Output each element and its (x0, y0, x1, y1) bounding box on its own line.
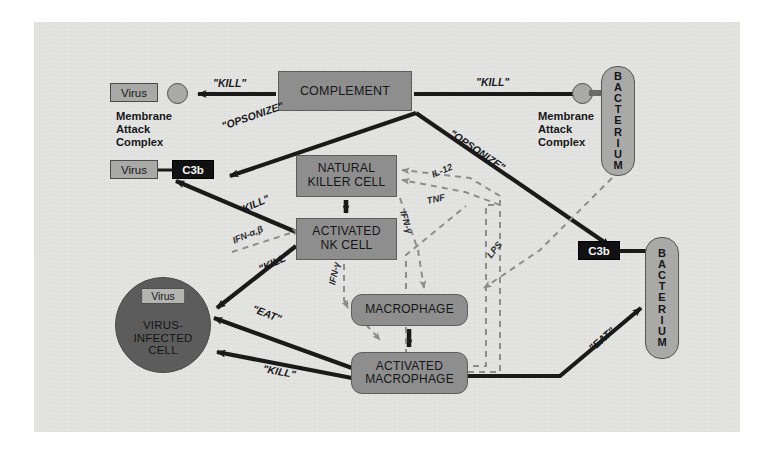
infected-cell-line3: CELL (133, 344, 192, 357)
membrane-attack-complex-icon-left (167, 83, 188, 104)
cap-left-l2: Attack (116, 123, 172, 136)
virus-c3b-link-left (158, 168, 174, 172)
dashed-feedback-routes (406, 196, 500, 372)
caption-membrane-attack-complex-left: Membrane Attack Complex (116, 110, 172, 150)
ank-label-line1: ACTIVATED (312, 225, 380, 239)
cap-right-l1: Membrane (538, 110, 594, 123)
route-amac-to-il12 (468, 196, 500, 372)
node-natural-killer-cell[interactable]: NATURAL KILLER CELL (296, 155, 397, 197)
cap-left-l1: Membrane (116, 110, 172, 123)
node-activated-macrophage[interactable]: ACTIVATED MACROPHAGE (351, 352, 468, 394)
edge-tnf-to-nk (402, 180, 500, 205)
c3b-left-label: C3b (182, 164, 204, 176)
infected-cell-line2: INFECTED (133, 332, 192, 345)
nk-label-line2: KILLER CELL (307, 176, 385, 190)
amac-label-line2: MACROPHAGE (365, 373, 454, 386)
caption-membrane-attack-complex-right: Membrane Attack Complex (538, 110, 594, 150)
node-bacterium-bottom[interactable]: B AC TE RI UM (645, 237, 679, 359)
amac-label-line1: ACTIVATED (365, 360, 454, 373)
node-complement[interactable]: COMPLEMENT (278, 71, 412, 111)
route-amac-upper (406, 206, 466, 366)
virus-top-left-label: Virus (121, 87, 147, 99)
ank-label-line2: NK CELL (312, 239, 380, 253)
cap-left-l3: Complex (116, 136, 172, 149)
route-amac-to-tnf (462, 205, 500, 366)
c3b-bacterium-link (619, 248, 647, 254)
infected-cell-line1: VIRUS- (133, 319, 192, 332)
node-macrophage[interactable]: MACROPHAGE (351, 294, 468, 326)
c3b-right-label: C3b (588, 245, 610, 257)
node-complement-label: COMPLEMENT (300, 84, 390, 98)
node-c3b-right[interactable]: C3b (578, 241, 620, 260)
macrophage-label: MACROPHAGE (365, 303, 454, 316)
edge-amac-eat-infected-cell (214, 318, 352, 368)
edge-amac-eat-bacterium (468, 308, 641, 376)
diagram-stage: COMPLEMENT NATURAL KILLER CELL ACTIVATED… (0, 0, 774, 455)
node-virus-opsonized[interactable]: Virus (110, 160, 158, 179)
cap-right-l2: Attack (538, 123, 594, 136)
virus-opsonized-label: Virus (121, 164, 147, 176)
node-activated-nk-cell[interactable]: ACTIVATED NK CELL (296, 218, 397, 260)
label-kill-complement-bacterium: "KILL" (476, 76, 509, 88)
node-bacterium-top[interactable]: B AC TE RI UM (601, 66, 635, 176)
node-virus-infected-cell[interactable]: Virus VIRUS- INFECTED CELL (115, 277, 211, 373)
nk-label-line1: NATURAL (307, 162, 385, 176)
node-virus-top-left[interactable]: Virus (110, 83, 158, 102)
cap-right-l3: Complex (538, 136, 594, 149)
edge-il12-to-nk (402, 170, 500, 196)
node-c3b-left[interactable]: C3b (172, 160, 214, 179)
virus-tag-in-cell: Virus (141, 288, 185, 304)
label-kill-complement-virus: "KILL" (213, 77, 246, 89)
